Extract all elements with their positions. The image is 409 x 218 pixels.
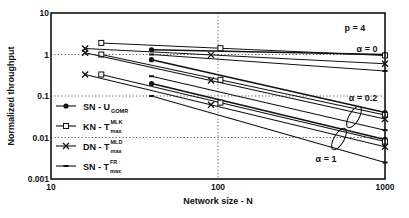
y-axis-label: Normalized throughput	[6, 47, 16, 146]
x-axis-ticks: 101001000	[46, 182, 394, 192]
legend-sub: max	[110, 168, 122, 174]
x-axis-label: Network size - N	[183, 196, 253, 206]
alpha-1-group-ellipse	[329, 126, 350, 152]
legend-label: SN - T	[83, 162, 110, 172]
legend-item: SN - UGOMR	[56, 102, 128, 114]
legend-item: DN - TMLDmax	[56, 139, 122, 154]
x-tick-label: 10	[46, 182, 56, 192]
legend-item: KN - TMLKmax	[56, 119, 122, 134]
legend-sup: FR	[110, 159, 117, 165]
alpha-0-annotation: α = 0	[357, 44, 378, 54]
legend-sub: GOMR	[111, 108, 128, 114]
y-tick-label: 0.01	[32, 133, 49, 143]
legend-sub: max	[111, 128, 123, 134]
p-annotation: p = 4	[345, 23, 366, 33]
legend-label: SN - U	[83, 102, 110, 112]
open-square-marker	[64, 124, 69, 129]
legend-sub: max	[111, 148, 123, 154]
alpha-02-annotation: α = 0.2	[349, 93, 377, 103]
series-line	[99, 72, 388, 144]
legend-item: SN - TFRmax	[56, 159, 122, 174]
legend-sup: MLK	[111, 119, 123, 125]
legend-label: KN - T	[83, 122, 110, 132]
legend-label: DN - T	[83, 142, 110, 152]
legend-sup: MLD	[111, 139, 123, 145]
chart: 0.0010.010.1110 101001000 Normalized thr…	[0, 0, 409, 218]
open-square-marker	[218, 46, 223, 51]
series-line	[149, 96, 387, 162]
x-tick-label: 100	[211, 182, 225, 192]
y-tick-label: 0.1	[37, 91, 49, 101]
filled-circle-marker	[149, 81, 154, 86]
series-line	[149, 55, 387, 72]
filled-circle-marker	[63, 103, 68, 108]
y-axis-ticks: 0.0010.010.1110	[28, 8, 50, 184]
open-square-marker	[218, 77, 223, 82]
series-line	[149, 47, 388, 57]
series-line	[149, 57, 388, 115]
series-line	[149, 76, 387, 130]
alpha-1-annotation: α = 1	[316, 154, 337, 164]
series-line	[99, 40, 388, 57]
filled-circle-marker	[149, 57, 154, 62]
y-tick-label: 10	[40, 8, 50, 18]
open-square-marker	[218, 100, 223, 105]
x-tick-label: 1000	[376, 182, 395, 192]
open-square-marker	[99, 40, 104, 45]
y-tick-label: 1	[44, 50, 49, 60]
open-square-marker	[99, 72, 104, 77]
